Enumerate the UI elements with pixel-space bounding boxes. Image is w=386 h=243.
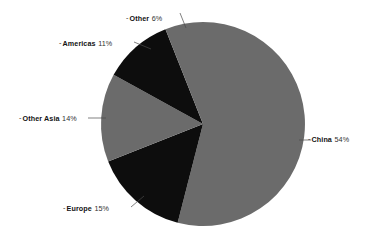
pie-label-europe: -Europe15%	[63, 204, 109, 212]
pie-chart: -China54% -Europe15% -Other Asia14% -Ame…	[0, 0, 386, 243]
pie-label-americas: -Americas11%	[59, 39, 112, 47]
label-bullet-china: -	[308, 135, 311, 142]
label-name-other-asia: Other Asia	[23, 114, 60, 123]
label-name-china: China	[312, 135, 332, 144]
label-value-other-asia: 14%	[62, 114, 77, 123]
label-value-americas: 11%	[98, 39, 112, 48]
label-name-europe: Europe	[67, 204, 92, 213]
label-name-americas: Americas	[63, 39, 96, 48]
label-value-china: 54%	[334, 135, 349, 144]
label-value-other: 6%	[152, 14, 163, 23]
pie-label-china: -China54%	[308, 135, 349, 143]
label-bullet-americas: -	[59, 39, 62, 46]
pie-label-other: -Other6%	[126, 14, 162, 22]
pie-label-other-asia: -Other Asia14%	[19, 114, 77, 122]
label-value-europe: 15%	[94, 204, 109, 213]
label-name-other: Other	[130, 14, 150, 23]
label-bullet-other: -	[126, 14, 129, 21]
label-bullet-other-asia: -	[19, 114, 22, 121]
label-bullet-europe: -	[63, 204, 66, 211]
